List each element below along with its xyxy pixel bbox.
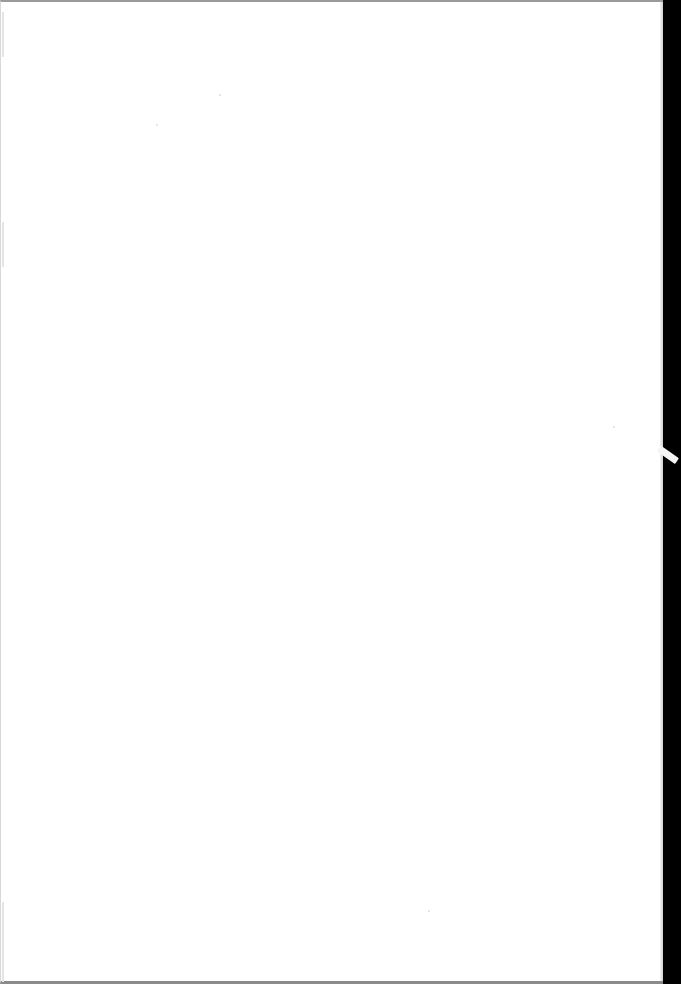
dust-speck — [613, 426, 615, 428]
dust-speck — [428, 910, 430, 912]
dust-speck — [219, 94, 221, 96]
gutter-mark — [2, 12, 4, 57]
dust-speck — [156, 124, 158, 126]
scanned-document — [0, 0, 681, 984]
gutter-mark — [2, 902, 4, 982]
scanner-bed-shadow — [663, 0, 681, 984]
gutter-mark — [2, 222, 4, 267]
blank-page — [0, 0, 663, 984]
